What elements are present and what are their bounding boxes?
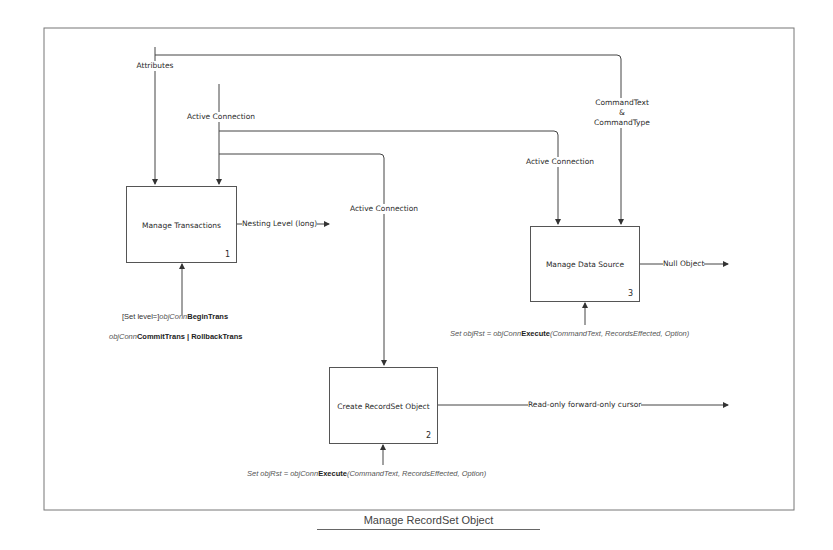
- box-number: 3: [628, 289, 633, 298]
- box-title: Manage Data Source: [531, 260, 639, 269]
- label-command-type: CommandType: [594, 118, 650, 128]
- code-args: (CommandText, RecordsEffected, Option): [550, 329, 689, 338]
- diagram-connectors: [0, 0, 833, 550]
- code-prefix: Set: [450, 329, 463, 338]
- box-manage-data-source[interactable]: Manage Data Source 3: [530, 226, 640, 302]
- code-eq: =: [282, 469, 291, 478]
- code-execute-box3: Set objRst = objConnExecute(CommandText,…: [450, 329, 689, 338]
- code-method: Execute: [318, 469, 347, 478]
- code-object: objConn: [109, 332, 137, 341]
- box-title: Create RecordSet Object: [330, 401, 437, 410]
- box-title: Manage Transactions: [127, 220, 236, 229]
- label-read-only-cursor: Read-only forward-only cursor: [528, 400, 641, 410]
- code-method: Execute: [521, 329, 550, 338]
- box-number: 2: [426, 431, 431, 440]
- label-command-text: CommandText: [595, 98, 649, 108]
- code-eq: =: [485, 329, 494, 338]
- code-execute-box2: Set objRst = objConnExecute(CommandText,…: [247, 469, 486, 478]
- code-commit-trans: objConnCommitTrans | RollbackTrans: [109, 332, 242, 341]
- code-object: objConn: [493, 329, 521, 338]
- label-active-connection-1: Active Connection: [187, 112, 255, 122]
- label-active-connection-3: Active Connection: [526, 157, 594, 167]
- label-active-connection-2: Active Connection: [350, 204, 418, 214]
- box-create-recordset-object[interactable]: Create RecordSet Object 2: [329, 367, 438, 444]
- code-method: BeginTrans: [187, 312, 228, 321]
- code-prefix: Set: [247, 469, 260, 478]
- label-ampersand: &: [619, 108, 625, 118]
- code-begin-trans: [Set level=]objConnBeginTrans: [122, 312, 228, 321]
- code-object: objConn: [159, 312, 187, 321]
- code-var: objRst: [260, 469, 281, 478]
- label-nesting-level: Nesting Level (long): [242, 219, 317, 229]
- code-args: (CommandText, RecordsEffected, Option): [347, 469, 486, 478]
- code-method: CommitTrans | RollbackTrans: [137, 332, 242, 341]
- code-var: objRst: [463, 329, 484, 338]
- label-null-object: Null Object: [663, 259, 704, 269]
- label-attributes: Attributes: [136, 61, 173, 71]
- diagram-caption: Manage RecordSet Object: [317, 514, 540, 530]
- code-object: objConn: [290, 469, 318, 478]
- code-prefix: [Set level=]: [122, 312, 159, 321]
- box-manage-transactions[interactable]: Manage Transactions 1: [126, 186, 237, 263]
- box-number: 1: [225, 250, 230, 259]
